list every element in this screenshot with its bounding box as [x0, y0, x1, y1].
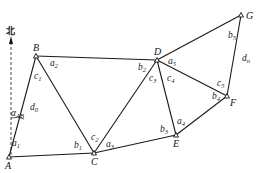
point-label-E: E: [172, 138, 179, 149]
point-label-G: G: [246, 10, 253, 21]
north-arrowhead-icon: [9, 36, 13, 44]
station-marker-B: [34, 54, 39, 59]
angle-label-d0: d0: [30, 102, 39, 113]
angle-label-b5: b5: [228, 30, 237, 41]
angle-label-a3: a3: [106, 139, 115, 150]
edge-FG: [227, 15, 241, 96]
triangulation-network-diagram: 北 αAB a1b1c1d0a2c2a3b2c3c4a5b3a4c5b4b5dn…: [0, 0, 260, 173]
edge-CD: [94, 60, 157, 153]
angle-label-a5: a5: [168, 56, 177, 67]
point-label-F: F: [229, 97, 237, 108]
angle-label-b3: b3: [160, 124, 169, 135]
edge-BC: [36, 56, 94, 153]
angle-label-c5: c5: [217, 78, 225, 89]
angle-label-a1: a1: [12, 138, 20, 149]
station-marker-D: [155, 58, 160, 63]
edge-AC: [9, 153, 94, 157]
angle-label-c1: c1: [34, 71, 41, 82]
station-marker-F: [225, 94, 230, 99]
north-arrow: 北: [6, 25, 15, 155]
angle-label-b1: b1: [74, 140, 82, 151]
point-label-A: A: [4, 160, 12, 171]
angle-label-c3: c3: [149, 73, 157, 84]
network-edges: [9, 15, 241, 157]
angle-label-a4: a4: [177, 116, 186, 127]
angle-label-c4: c4: [167, 73, 175, 84]
point-label-D: D: [153, 46, 162, 57]
station-marker-G: [239, 13, 244, 18]
angle-label-a2: a2: [50, 58, 59, 69]
point-label-B: B: [33, 42, 39, 53]
point-label-C: C: [91, 156, 98, 167]
angle-labels: a1b1c1d0a2c2a3b2c3c4a5b3a4c5b4b5dn: [12, 30, 250, 151]
angle-label-b2: b2: [138, 62, 147, 73]
station-marker-A: [7, 155, 12, 160]
north-label: 北: [6, 25, 15, 36]
angle-label-c2: c2: [91, 132, 99, 143]
angle-label-dn: dn: [242, 53, 250, 64]
